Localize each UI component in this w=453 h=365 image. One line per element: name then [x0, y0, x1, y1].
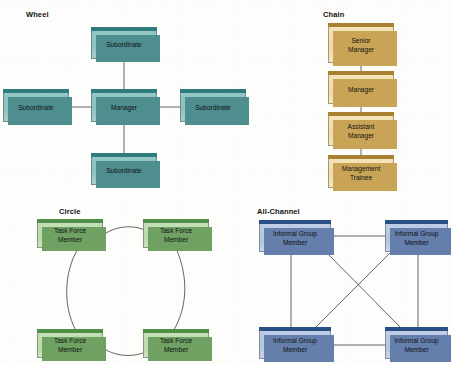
node-label: Subordinate [195, 104, 231, 113]
node-wheel-center: Manager [91, 92, 157, 122]
node-label: Task Force Member [54, 337, 86, 355]
node-label: Manager [348, 86, 374, 95]
communication-networks-figure: Wheel Chain Circle All-Channel Subordina… [0, 0, 453, 365]
section-label-wheel: Wheel [26, 10, 49, 19]
node-label: Manager [111, 104, 137, 113]
node-label: Management Trainee [342, 165, 381, 183]
node-label: Subordinate [18, 104, 54, 113]
all-channel-diagonal-tr-bl [312, 250, 393, 331]
node-label: Senior Manager [348, 37, 374, 55]
node-all-channel-bottom-left: Informal Group Member [259, 330, 331, 359]
node-wheel-top: Subordinate [91, 30, 157, 59]
node-all-channel-bottom-right: Informal Group Member [385, 330, 448, 359]
node-wheel-bottom: Subordinate [91, 156, 157, 185]
node-label: Task Force Member [160, 337, 192, 355]
circle-arc-right [170, 248, 185, 336]
node-chain-senior-manager: Senior Manager [328, 26, 394, 63]
section-label-all-channel: All-Channel [257, 207, 300, 216]
node-chain-management-trainee: Management Trainee [328, 158, 394, 188]
node-all-channel-top-left: Informal Group Member [259, 223, 331, 252]
node-chain-assistant-manager: Assistant Manager [328, 115, 394, 146]
node-label: Task Force Member [54, 227, 86, 245]
node-circle-top-left: Task Force Member [37, 222, 103, 248]
node-label: Assistant Manager [348, 123, 375, 141]
node-label: Subordinate [106, 167, 142, 176]
all-channel-diagonal-tl-br [324, 250, 404, 331]
section-label-chain: Chain [323, 10, 344, 19]
node-label: Informal Group Member [395, 230, 439, 248]
node-chain-manager: Manager [328, 74, 394, 104]
node-label: Informal Group Member [273, 337, 317, 355]
node-circle-bottom-right: Task Force Member [143, 332, 209, 358]
node-circle-top-right: Task Force Member [143, 222, 209, 248]
node-wheel-left: Subordinate [3, 92, 69, 122]
node-label: Informal Group Member [273, 230, 317, 248]
node-label: Task Force Member [160, 227, 192, 245]
node-label: Informal Group Member [395, 337, 439, 355]
node-circle-bottom-left: Task Force Member [37, 332, 103, 358]
node-all-channel-top-right: Informal Group Member [385, 223, 448, 252]
node-label: Subordinate [106, 41, 142, 50]
node-wheel-right: Subordinate [180, 92, 246, 122]
circle-arc-left [67, 247, 79, 336]
section-label-circle: Circle [59, 207, 80, 216]
